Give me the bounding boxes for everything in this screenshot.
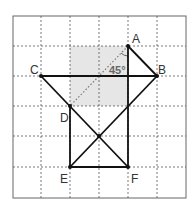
label-c: C [30,63,39,77]
point-e [68,165,72,169]
label-b: B [158,63,166,77]
grid-frame [13,16,186,198]
point-c [39,74,43,78]
point-d [68,104,72,108]
geometry-diagram: A B C D E F 45° [0,0,195,212]
label-d: D [60,111,69,125]
point-intersection [97,134,101,138]
label-a: A [132,32,140,46]
point-a [126,44,130,48]
point-f [126,165,130,169]
angle-label: 45° [109,64,126,76]
label-f: F [131,172,138,186]
label-e: E [60,172,68,186]
